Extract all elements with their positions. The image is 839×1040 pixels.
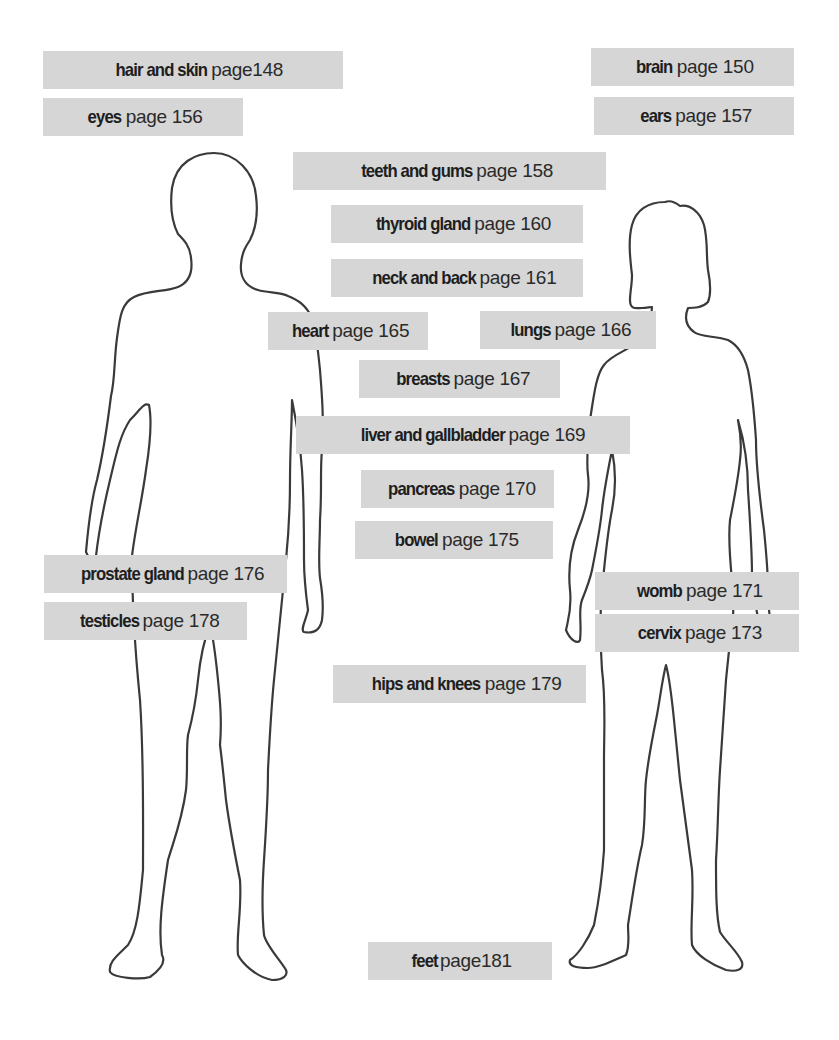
organ-name: neck and back bbox=[372, 267, 476, 289]
page-reference: page 161 bbox=[480, 267, 557, 289]
label-womb[interactable]: womb page 171 bbox=[595, 572, 799, 610]
label-bowel[interactable]: bowel page 175 bbox=[355, 521, 553, 559]
page-reference: page 150 bbox=[677, 56, 754, 78]
organ-name: eyes bbox=[88, 106, 122, 128]
page-reference: page 176 bbox=[188, 563, 265, 585]
organ-name: teeth and gums bbox=[361, 160, 472, 182]
organ-name: breasts bbox=[396, 368, 449, 390]
organ-name: brain bbox=[636, 56, 672, 78]
page-reference: page 170 bbox=[459, 478, 536, 500]
page-reference: page 179 bbox=[485, 673, 562, 695]
page-reference: page 169 bbox=[508, 424, 585, 446]
organ-name: prostate gland bbox=[81, 563, 184, 585]
label-cervix[interactable]: cervix page 173 bbox=[595, 614, 799, 652]
organ-name: heart bbox=[292, 320, 328, 342]
organ-name: thyroid gland bbox=[376, 213, 470, 235]
page-reference: page 167 bbox=[453, 368, 530, 390]
organ-name: hair and skin bbox=[115, 59, 207, 81]
page-reference: page 166 bbox=[554, 319, 631, 341]
page-reference: page 157 bbox=[675, 105, 752, 127]
page-reference: page 173 bbox=[685, 622, 762, 644]
organ-name: feet bbox=[412, 950, 438, 972]
organ-name: liver and gallbladder bbox=[360, 424, 504, 446]
label-ears[interactable]: ears page 157 bbox=[594, 97, 794, 135]
organ-name: ears bbox=[640, 105, 671, 127]
page-reference: page 158 bbox=[476, 160, 553, 182]
label-testicles[interactable]: testicles page 178 bbox=[44, 602, 247, 640]
organ-name: testicles bbox=[80, 610, 139, 632]
label-lungs[interactable]: lungs page 166 bbox=[480, 311, 656, 349]
organ-name: pancreas bbox=[388, 478, 454, 500]
page-reference: page 171 bbox=[686, 580, 763, 602]
page-reference: page 160 bbox=[474, 213, 551, 235]
organ-name: bowel bbox=[395, 529, 438, 551]
organ-name: lungs bbox=[510, 319, 550, 341]
label-teeth-and-gums[interactable]: teeth and gums page 158 bbox=[293, 152, 606, 190]
label-eyes[interactable]: eyes page 156 bbox=[43, 98, 243, 136]
page-reference: page148 bbox=[211, 59, 283, 81]
label-hips-and-knees[interactable]: hips and knees page 179 bbox=[333, 665, 586, 703]
label-feet[interactable]: feet page181 bbox=[368, 942, 552, 980]
organ-name: hips and knees bbox=[372, 673, 480, 695]
label-pancreas[interactable]: pancreas page 170 bbox=[361, 470, 554, 508]
label-heart[interactable]: heart page 165 bbox=[268, 312, 428, 350]
label-thyroid-gland[interactable]: thyroid gland page 160 bbox=[331, 205, 583, 243]
label-hair-and-skin[interactable]: hair and skin page148 bbox=[43, 51, 343, 89]
organ-name: cervix bbox=[638, 622, 681, 644]
label-breasts[interactable]: breasts page 167 bbox=[359, 360, 560, 398]
page-reference: page 165 bbox=[332, 320, 409, 342]
label-brain[interactable]: brain page 150 bbox=[591, 48, 794, 86]
organ-name: womb bbox=[637, 580, 682, 602]
page-reference: page 156 bbox=[126, 106, 203, 128]
label-prostate-gland[interactable]: prostate gland page 176 bbox=[44, 555, 287, 593]
page-reference: page 175 bbox=[442, 529, 519, 551]
page-reference: page181 bbox=[440, 950, 512, 972]
page-reference: page 178 bbox=[143, 610, 220, 632]
label-neck-and-back[interactable]: neck and back page 161 bbox=[331, 259, 583, 297]
label-liver-and-gallbladder[interactable]: liver and gallbladder page 169 bbox=[296, 416, 630, 454]
